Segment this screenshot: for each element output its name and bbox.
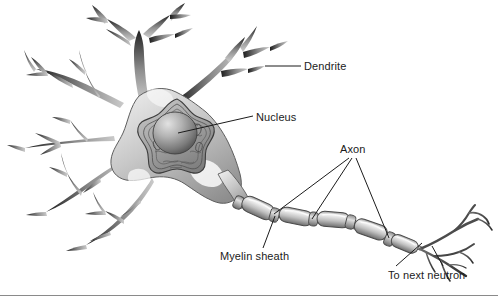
dendrite-branch-upper-main [86, 3, 193, 104]
figure-baseline-rule [0, 295, 498, 296]
label-axon: Axon [340, 143, 365, 156]
label-dendrite: Dendrite [304, 60, 346, 73]
label-to-next-neutron: To next neutron [388, 269, 465, 282]
leader-line-myelin [263, 216, 275, 248]
label-nucleus: Nucleus [256, 111, 296, 124]
label-myelin-sheath: Myelin sheath [220, 250, 289, 263]
myelin-segment [352, 217, 389, 242]
dendrite-branch-left-middle [7, 117, 115, 155]
neuron-diagram-figure: Dendrite Nucleus Axon Myelin sheath To n… [0, 0, 498, 307]
axon-fiber [232, 194, 420, 255]
nucleolus [153, 112, 197, 154]
myelin-segments [232, 194, 420, 255]
dendrite-branch-bottom-left [66, 178, 154, 251]
myelin-segment [389, 233, 420, 256]
dendrite-branch-upper-left [24, 50, 124, 108]
